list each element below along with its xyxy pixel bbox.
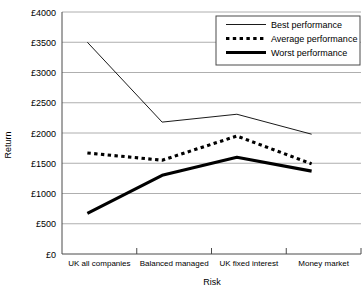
legend: Best performanceAverage performanceWorst… [216,16,360,65]
x-axis-category-label: UK fixed interest [220,259,279,268]
y-axis-tick-labels: £0£500£1000£1500£2000£2500£3000£3500£400… [31,8,56,260]
legend-item-label: Average performance [271,34,357,44]
y-axis-tick-label: £500 [36,219,56,229]
y-axis-tick-label: £3500 [31,38,56,48]
y-axis-tick-label: £0 [46,250,56,260]
y-axis-tick-label: £2000 [31,129,56,139]
x-axis-title: Risk [203,277,221,287]
legend-item-label: Best performance [271,20,342,30]
y-axis-title: Return [3,131,13,158]
y-axis-tick-label: £3000 [31,68,56,78]
y-axis-tick-label: £4000 [31,8,56,18]
y-axis-tick-label: £1000 [31,189,56,199]
data-series-group [87,42,311,213]
x-axis-category-label: UK all companies [68,259,130,268]
x-axis-category-labels: UK all companiesBalanced managedUK fixed… [68,259,349,268]
x-axis-category-label: Money market [298,259,349,268]
series-line-2 [87,157,311,213]
series-line-1 [87,136,311,164]
chart-container: £0£500£1000£1500£2000£2500£3000£3500£400… [0,0,362,290]
x-axis-category-label: Balanced managed [140,259,209,268]
y-axis-tick-label: £2500 [31,98,56,108]
y-axis-tick-label: £1500 [31,159,56,169]
x-axis-ticks [137,248,361,254]
line-chart: £0£500£1000£1500£2000£2500£3000£3500£400… [0,0,362,290]
legend-item-label: Worst performance [271,48,347,58]
